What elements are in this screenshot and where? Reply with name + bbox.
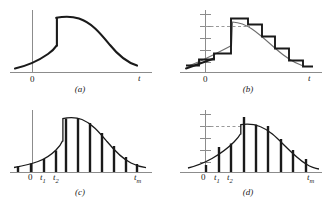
panel-d-tick-sub-m: m [310,177,315,184]
panel-c-tick-sub-m: m [137,177,142,184]
panel-c-tick-sub-2: 2 [56,177,59,184]
panel-d-origin-label: 0 [201,172,206,182]
panel-d-tick-label-t2: t2 [227,172,233,184]
panel-d-tick-sub-2: 2 [230,177,233,184]
panel-c-caption: (c) [60,187,100,197]
panel-c-tick-label-t1: t1 [40,172,46,184]
panel-b-origin-label: 0 [203,74,208,84]
panel-a-origin-label: 0 [30,74,35,84]
panel-c-tick-label-t2: t2 [53,172,59,184]
panel-d-tick-sub-1: 1 [217,177,220,184]
panel-c-origin-label: 0 [28,172,33,182]
panel-d-tick-label-t1: t1 [214,172,220,184]
panel-c-tick-label-tm: tm [134,172,141,184]
panel-a-caption: (a) [60,84,100,94]
figure-four-panel-plot: t 0 t 0 [0,0,336,205]
panel-c-tick-sub-1: 1 [43,177,46,184]
panel-d-tick-label-tm: tm [307,172,314,184]
figure-background [0,0,336,205]
panel-d-caption: (d) [228,187,268,197]
panel-b-caption: (b) [228,84,268,94]
